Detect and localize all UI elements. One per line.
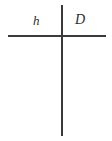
- vertical-axis-line: [61, 5, 63, 136]
- axis-label-d: D: [75, 13, 85, 27]
- diagram-canvas: h D: [0, 0, 112, 141]
- horizontal-axis-line: [8, 35, 106, 37]
- axis-label-h: h: [33, 14, 40, 27]
